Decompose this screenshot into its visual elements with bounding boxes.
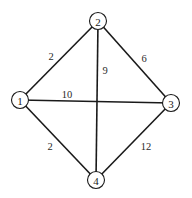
edge-3-4 [96,103,171,180]
node-4: 4 [88,172,105,189]
edge-weight-1-4: 2 [47,141,52,152]
node-3: 3 [163,95,180,112]
weighted-graph-diagram: 2 6 9 10 2 12 1 2 3 4 [0,0,192,198]
node-1-label: 1 [17,95,23,107]
edges-group [20,21,171,180]
edge-weight-2-3: 6 [141,53,146,64]
edge-weight-3-4: 12 [141,141,152,152]
node-3-label: 3 [168,98,174,110]
edge-2-3 [98,21,171,103]
node-1: 1 [12,92,29,109]
edge-2-4 [96,21,98,180]
edge-weight-1-3: 10 [62,89,73,100]
node-2-label: 2 [95,16,101,28]
node-4-label: 4 [93,175,99,187]
edge-1-2 [20,21,98,100]
edge-1-4 [20,100,96,180]
edge-weight-1-2: 2 [48,51,53,62]
edge-weight-2-4: 9 [102,65,107,76]
node-2: 2 [90,13,107,30]
edge-1-3 [20,100,171,103]
